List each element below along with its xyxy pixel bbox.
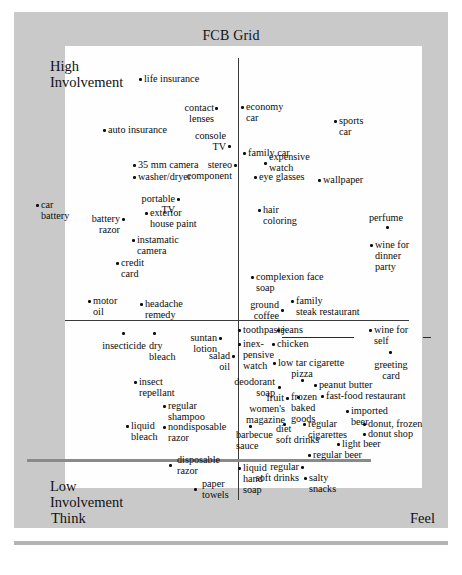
data-label-ground-coffee: ground coffee — [236, 299, 279, 321]
data-label-complexion-face-soap: complexion face soap — [256, 271, 324, 293]
data-dot — [219, 337, 222, 340]
data-label-35mm-camera: 35 mm camera — [138, 159, 199, 170]
data-label-auto-insurance: auto insurance — [108, 124, 167, 135]
data-label-barbecue-sauce: barbecue sauce — [236, 429, 273, 451]
data-dot — [278, 386, 281, 389]
wine-self-dash — [423, 337, 431, 338]
data-dot — [251, 276, 254, 279]
data-label-inexpensive-watch: inex- pensive watch — [243, 338, 274, 372]
data-dot — [133, 176, 136, 179]
data-label-exterior-house-paint: exterior house paint — [150, 207, 197, 229]
data-label-headache-remedy: headache remedy — [145, 298, 183, 320]
data-dot — [363, 423, 366, 426]
data-dot — [363, 433, 366, 436]
data-dot — [321, 395, 324, 398]
data-label-light-beer: light beer — [342, 438, 381, 449]
data-label-insecticide: insecticide — [90, 340, 158, 351]
figure-frame: FCB Grid High Involvement Low Involvemen… — [14, 12, 448, 528]
data-label-insect-repellant: insect repellant — [139, 376, 175, 398]
data-dot — [228, 145, 231, 148]
data-label-regular-shampoo: regular shampoo — [168, 400, 205, 422]
bottom-rule — [14, 541, 448, 545]
data-label-instamatic-camera: instamatic camera — [137, 234, 179, 256]
data-label-economy-car: economy car — [246, 101, 283, 123]
data-dot — [232, 355, 235, 358]
data-dot — [272, 343, 275, 346]
data-dot — [134, 381, 137, 384]
data-dot — [163, 426, 166, 429]
axis-label-low-involvement: Low Involvement — [50, 478, 123, 510]
data-label-greeting-card: greeting card — [365, 359, 417, 381]
data-dot — [386, 226, 389, 229]
data-dot — [314, 384, 317, 387]
data-dot — [277, 329, 280, 332]
data-label-sports-car: sports car — [339, 115, 363, 137]
data-label-salty-snacks: salty snacks — [309, 472, 336, 494]
data-label-console-tv: console TV — [172, 130, 226, 152]
data-dot — [369, 329, 372, 332]
data-dot — [243, 152, 246, 155]
data-dot — [264, 162, 267, 165]
data-label-wine-for-self: wine for self — [374, 324, 408, 346]
data-label-perfume: perfume — [369, 212, 403, 223]
page-title: FCB Grid — [14, 28, 448, 44]
data-dot — [122, 332, 125, 335]
data-dot — [370, 244, 373, 247]
data-dot — [258, 209, 261, 212]
data-label-womens-magazine: women's magazine — [217, 403, 285, 425]
data-label-regular-soft-drinks: regular soft drinks — [236, 461, 299, 483]
data-label-fast-food-restaurant: fast-food restaurant — [326, 390, 406, 401]
data-dot — [133, 164, 136, 167]
data-label-salad-oil: salad oil — [194, 350, 230, 372]
data-dot — [122, 218, 125, 221]
fcb-grid-figure: FCB Grid High Involvement Low Involvemen… — [0, 0, 462, 575]
data-label-peanut-butter: peanut butter — [319, 379, 372, 390]
data-dot — [103, 129, 106, 132]
data-label-paper-towels: paper towels — [202, 478, 229, 500]
data-label-jeans: jeans — [282, 324, 303, 335]
data-dot — [286, 397, 289, 400]
data-label-battery-razor: battery razor — [66, 213, 120, 235]
data-label-diet-soft-drinks: diet soft drinks — [276, 423, 319, 445]
axis-label-think: Think — [51, 510, 86, 526]
axis-label-feel: Feel — [410, 510, 435, 526]
data-dot — [301, 466, 304, 469]
data-dot — [116, 262, 119, 265]
data-dot — [132, 239, 135, 242]
data-dot — [238, 329, 241, 332]
data-dot — [337, 443, 340, 446]
data-label-disposable-razor: disposable razor — [177, 454, 220, 476]
data-dot — [177, 198, 180, 201]
data-label-life-insurance: life insurance — [144, 73, 199, 84]
data-label-family-steak-restaurant: family steak restaurant — [296, 295, 360, 317]
data-dot — [215, 107, 218, 110]
data-dot — [126, 425, 129, 428]
data-dot — [241, 106, 244, 109]
data-dot — [234, 164, 237, 167]
data-dot — [169, 464, 172, 467]
data-label-wallpaper: wallpaper — [323, 174, 363, 185]
data-dot — [249, 425, 252, 428]
data-dot — [194, 488, 197, 491]
data-label-washer-dryer: washer/dryer — [138, 171, 191, 182]
data-dot — [145, 212, 148, 215]
data-dot — [88, 300, 91, 303]
data-label-hair-coloring: hair coloring — [263, 204, 297, 226]
data-dot — [334, 120, 337, 123]
data-label-wine-dinner-party: wine for dinner party — [375, 239, 409, 273]
data-dot — [273, 362, 276, 365]
data-label-fruit: fruit — [257, 392, 284, 403]
data-dot — [308, 454, 311, 457]
data-dot — [140, 303, 143, 306]
data-label-motor-oil: motor oil — [93, 295, 117, 317]
data-label-liquid-bleach: liquid bleach — [131, 420, 158, 442]
data-dot — [254, 176, 257, 179]
data-dot — [163, 405, 166, 408]
data-label-chicken: chicken — [277, 338, 309, 349]
data-dot — [318, 179, 321, 182]
data-dot — [139, 78, 142, 81]
axis-label-high-involvement: High Involvement — [50, 58, 123, 90]
data-dot — [389, 351, 392, 354]
data-label-eye-glasses: eye glasses — [259, 171, 305, 182]
data-label-credit-card: credit card — [121, 257, 144, 279]
